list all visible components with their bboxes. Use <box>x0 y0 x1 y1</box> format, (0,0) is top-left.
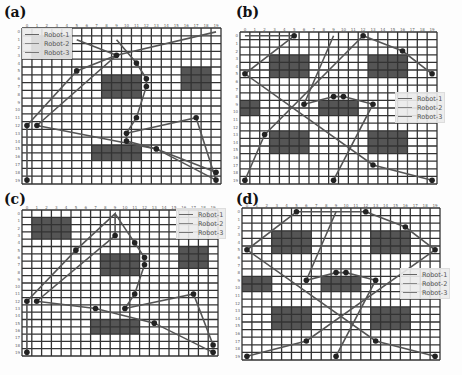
legend-swatch <box>179 223 193 225</box>
waypoint-node <box>74 68 80 74</box>
svg-text:18: 18 <box>15 170 21 175</box>
svg-text:8: 8 <box>325 203 328 208</box>
waypoint-node <box>341 94 347 100</box>
legend-item: Robot-1 <box>398 94 442 103</box>
svg-text:10: 10 <box>343 203 349 208</box>
legend-label: Robot-1 <box>417 95 442 103</box>
svg-text:9: 9 <box>335 203 338 208</box>
svg-text:1: 1 <box>254 27 257 32</box>
legend-swatch <box>25 34 39 36</box>
waypoint-node <box>331 94 337 100</box>
svg-text:6: 6 <box>84 205 87 210</box>
svg-text:18: 18 <box>233 170 239 175</box>
svg-text:11: 11 <box>353 203 359 208</box>
waypoint-node <box>124 131 130 137</box>
svg-text:8: 8 <box>105 23 108 28</box>
svg-text:16: 16 <box>233 155 239 160</box>
svg-text:8: 8 <box>17 92 20 97</box>
legend-label: Robot-1 <box>198 211 223 219</box>
svg-text:18: 18 <box>235 346 241 351</box>
svg-text:0: 0 <box>237 209 240 214</box>
waypoint-node <box>132 240 138 246</box>
legend-item: Robot-2 <box>179 219 223 228</box>
svg-text:0: 0 <box>17 211 20 216</box>
svg-text:9: 9 <box>115 23 118 28</box>
legend-label: Robot-2 <box>44 40 69 48</box>
svg-text:11: 11 <box>351 27 357 32</box>
svg-text:12: 12 <box>233 125 239 130</box>
waypoint-node <box>34 123 40 129</box>
svg-text:7: 7 <box>315 203 318 208</box>
waypoint-node <box>134 60 140 66</box>
svg-text:19: 19 <box>15 350 21 355</box>
svg-text:1: 1 <box>237 217 240 222</box>
waypoint-node <box>262 132 268 138</box>
obstacle <box>179 247 208 269</box>
svg-text:11: 11 <box>132 205 138 210</box>
svg-text:7: 7 <box>313 27 316 32</box>
svg-text:4: 4 <box>235 64 238 69</box>
svg-text:6: 6 <box>85 23 88 28</box>
legend: Robot-1Robot-2Robot-3 <box>22 28 72 59</box>
svg-text:5: 5 <box>17 248 20 253</box>
svg-text:14: 14 <box>15 313 21 318</box>
legend-item: Robot-1 <box>403 270 447 279</box>
svg-text:15: 15 <box>15 146 21 151</box>
waypoint-node <box>132 291 138 297</box>
svg-text:18: 18 <box>423 203 429 208</box>
waypoint-node <box>301 101 307 107</box>
svg-text:4: 4 <box>17 61 20 66</box>
svg-text:6: 6 <box>17 255 20 260</box>
legend-item: Robot-2 <box>398 103 442 112</box>
legend-swatch <box>398 116 412 118</box>
legend-item: Robot-3 <box>179 228 223 237</box>
svg-text:16: 16 <box>15 154 21 159</box>
waypoint-node <box>213 177 219 183</box>
svg-text:12: 12 <box>363 203 369 208</box>
waypoint-node <box>34 298 40 304</box>
svg-text:9: 9 <box>235 102 238 107</box>
svg-text:8: 8 <box>322 27 325 32</box>
svg-text:9: 9 <box>17 277 20 282</box>
waypoint-node <box>134 115 140 121</box>
svg-text:17: 17 <box>15 335 21 340</box>
legend-label: Robot-1 <box>422 271 447 279</box>
svg-text:6: 6 <box>237 255 240 260</box>
svg-text:0: 0 <box>26 23 29 28</box>
svg-text:3: 3 <box>273 27 276 32</box>
waypoint-node <box>122 306 128 312</box>
panel-label: (b) <box>236 4 259 20</box>
waypoint-node <box>154 146 160 152</box>
svg-text:13: 13 <box>233 132 239 137</box>
waypoint-node <box>244 353 250 359</box>
svg-text:4: 4 <box>237 240 240 245</box>
svg-text:10: 10 <box>15 107 21 112</box>
svg-text:1: 1 <box>17 37 20 42</box>
svg-text:15: 15 <box>390 27 396 32</box>
legend-item: Robot-1 <box>179 210 223 219</box>
waypoint-node <box>191 291 197 297</box>
waypoint-node <box>112 233 118 239</box>
svg-text:3: 3 <box>17 233 20 238</box>
waypoint-node <box>432 247 438 253</box>
legend: Robot-1Robot-2Robot-3 <box>395 92 445 123</box>
svg-text:6: 6 <box>305 203 308 208</box>
svg-text:5: 5 <box>293 27 296 32</box>
svg-text:3: 3 <box>55 205 58 210</box>
svg-text:2: 2 <box>235 49 238 54</box>
waypoint-node <box>429 71 435 77</box>
svg-text:18: 18 <box>15 343 21 348</box>
svg-text:16: 16 <box>400 27 406 32</box>
svg-text:19: 19 <box>235 354 241 359</box>
svg-text:12: 12 <box>144 23 150 28</box>
svg-text:19: 19 <box>233 178 239 183</box>
svg-text:14: 14 <box>233 140 239 145</box>
waypoint-node <box>142 255 148 261</box>
svg-text:1: 1 <box>36 23 39 28</box>
waypoint-node <box>114 53 120 59</box>
svg-text:13: 13 <box>15 306 21 311</box>
obstacle <box>181 67 211 90</box>
svg-text:0: 0 <box>246 203 249 208</box>
legend-item: Robot-3 <box>398 112 442 121</box>
svg-text:4: 4 <box>283 27 286 32</box>
